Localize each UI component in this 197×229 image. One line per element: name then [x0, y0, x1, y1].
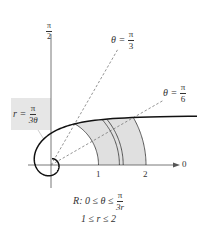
curve-label: r = π3θ — [13, 104, 38, 125]
region-definition: R: 0 ≤ θ ≤ π3r — [0, 191, 197, 212]
tick-label-1: 1 — [96, 170, 101, 179]
tick-label-2: 2 — [143, 170, 148, 179]
ray-label-pi-over-3: θ = π3 — [111, 30, 134, 51]
polar-axis-label: 0 — [182, 160, 187, 169]
ray-label-pi-over-6: θ = π6 — [163, 83, 186, 104]
region-r-bounds: 1 ≤ r ≤ 2 — [0, 213, 197, 224]
label-pointer — [38, 130, 43, 138]
polar-axis-arrow-icon — [173, 163, 180, 168]
vertical-axis-label: π2 — [46, 22, 52, 41]
